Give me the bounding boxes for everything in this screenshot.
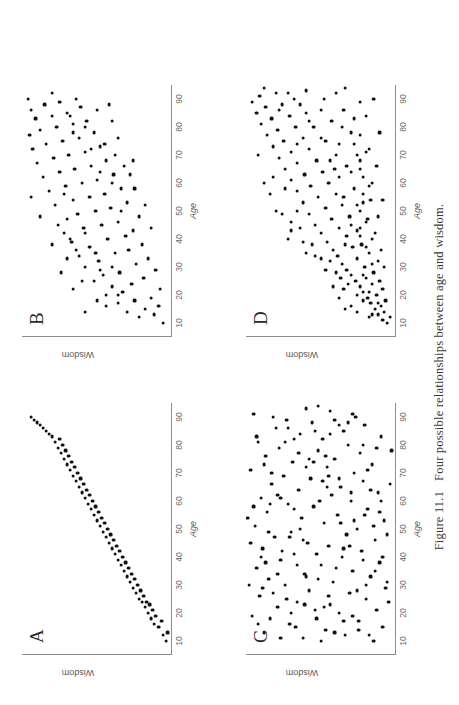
x-tick-40: 40 [398, 552, 408, 561]
data-point [255, 435, 258, 438]
data-point [280, 103, 283, 106]
plot-area-b: B [22, 85, 172, 337]
data-point [276, 572, 279, 575]
data-point [261, 586, 264, 589]
data-point [327, 595, 330, 598]
data-point [316, 449, 319, 452]
data-point [282, 139, 285, 142]
data-point [321, 480, 324, 483]
data-point [292, 553, 295, 556]
data-point [364, 221, 367, 224]
data-point [361, 176, 364, 179]
data-point [337, 296, 340, 299]
data-point [277, 446, 280, 449]
data-point [154, 268, 157, 271]
data-point [70, 460, 73, 463]
data-point [29, 195, 32, 198]
data-point [376, 215, 379, 218]
data-point [262, 181, 265, 184]
data-point [50, 435, 53, 438]
x-tick-50: 50 [174, 524, 184, 533]
data-point [103, 522, 106, 525]
data-point [283, 441, 286, 444]
data-point [80, 181, 83, 184]
data-point [312, 460, 315, 463]
data-point [334, 567, 337, 570]
data-point [131, 229, 134, 232]
data-point [343, 243, 346, 246]
data-point [74, 480, 77, 483]
data-point [289, 530, 292, 533]
data-point [370, 263, 373, 266]
data-point [336, 513, 339, 516]
data-point [372, 639, 375, 642]
data-point [307, 120, 310, 123]
data-point [337, 176, 340, 179]
data-point [363, 513, 366, 516]
data-point [85, 120, 88, 123]
data-point [88, 246, 91, 249]
x-tick-10: 10 [174, 636, 184, 645]
data-point [70, 240, 73, 243]
data-point [307, 457, 310, 460]
x-tick-90: 90 [174, 412, 184, 421]
data-point [307, 212, 310, 215]
data-point [312, 505, 315, 508]
x-tick-90: 90 [398, 412, 408, 421]
data-point [76, 212, 79, 215]
x-tick-60: 60 [398, 496, 408, 505]
data-point [264, 455, 267, 458]
data-point [85, 488, 88, 491]
data-point [71, 131, 74, 134]
data-point [106, 237, 109, 240]
data-point [355, 293, 358, 296]
data-point [370, 313, 373, 316]
data-point [83, 151, 86, 154]
data-point [270, 483, 273, 486]
data-point [390, 449, 393, 452]
data-point [372, 525, 375, 528]
data-point [352, 117, 355, 120]
data-point [292, 97, 295, 100]
plot-area-d: D [246, 85, 396, 337]
data-point [112, 539, 115, 542]
data-point [343, 86, 346, 89]
data-point [134, 592, 137, 595]
data-point [95, 299, 98, 302]
data-point [337, 424, 340, 427]
data-point [355, 257, 358, 260]
data-point [124, 561, 127, 564]
data-point [355, 589, 358, 592]
data-point [161, 321, 164, 324]
data-point [379, 249, 382, 252]
data-point [288, 623, 291, 626]
data-point [98, 525, 101, 528]
panel-label-d: D [250, 311, 272, 325]
data-point [295, 190, 298, 193]
data-point [274, 209, 277, 212]
data-point [131, 159, 134, 162]
data-point [304, 466, 307, 469]
y-axis-title-a: Wisdom [23, 668, 133, 678]
data-point [277, 109, 280, 112]
data-point [328, 432, 331, 435]
data-point [98, 170, 101, 173]
data-point [381, 555, 384, 558]
panel-label-c: C [250, 630, 272, 643]
data-point [286, 92, 289, 95]
data-point [379, 305, 382, 308]
data-point [148, 603, 151, 606]
data-point [361, 201, 364, 204]
data-point [342, 195, 345, 198]
data-point [361, 558, 364, 561]
data-point [164, 639, 167, 642]
x-tick-60: 60 [174, 178, 184, 187]
data-point [298, 103, 301, 106]
data-points-a [22, 403, 172, 655]
data-point [334, 92, 337, 95]
data-point [246, 516, 249, 519]
data-point [319, 564, 322, 567]
data-point [351, 246, 354, 249]
data-point [373, 307, 376, 310]
data-point [303, 603, 306, 606]
